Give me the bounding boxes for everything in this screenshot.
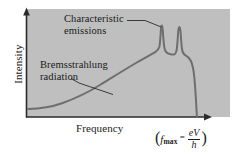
formula-subscript-max: max (163, 137, 177, 146)
y-axis-label: Intensity (12, 34, 24, 94)
formula-denominator: h (191, 140, 198, 151)
formula-open-paren: ( (155, 130, 160, 146)
fmax-formula-note: ( f max = eV h ) (155, 128, 207, 150)
formula-close-paren: ) (201, 130, 206, 146)
characteristic-emissions-label: Characteristic emissions (64, 13, 124, 37)
formula-numerator: eV (188, 128, 201, 139)
formula-equals-sign: = (180, 132, 185, 142)
x-axis-label: Frequency (76, 122, 123, 134)
bremsstrahlung-radiation-label: Bremsstrahlung radiation (40, 59, 108, 83)
xray-spectrum-figure: Intensity Frequency Characteristic emiss… (0, 0, 243, 154)
formula-fraction: eV h (188, 128, 201, 150)
